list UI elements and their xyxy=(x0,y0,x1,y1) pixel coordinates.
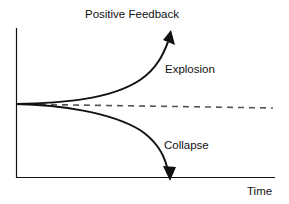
explosion-label: Explosion xyxy=(165,64,215,76)
collapse-curve xyxy=(16,104,167,167)
positive-feedback-diagram: Positive Feedback Explosion Collapse Tim… xyxy=(0,0,289,204)
collapse-arrow-icon xyxy=(163,166,176,181)
diagram-canvas xyxy=(0,0,289,204)
baseline-dashed-line xyxy=(40,105,273,109)
explosion-arrow-icon xyxy=(163,30,175,45)
x-axis-label: Time xyxy=(247,186,272,198)
collapse-label: Collapse xyxy=(164,140,209,152)
explosion-curve xyxy=(16,42,168,104)
diagram-title: Positive Feedback xyxy=(85,9,179,21)
